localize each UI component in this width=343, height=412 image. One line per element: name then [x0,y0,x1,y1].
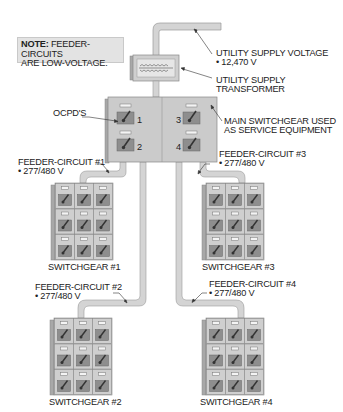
note-prefix: NOTE: [21,39,49,49]
ocpd-number-1: 1 [137,116,142,126]
switchgear-2-caption: SWITCHGEAR #2 [49,398,121,408]
switchgear-4 [202,318,264,395]
ocpds-label: OCPD'S [53,109,86,119]
switchgear-4-caption: SWITCHGEAR #4 [200,398,272,408]
feeder-2-voltage: • 277/480 V [35,292,80,302]
feeder-4-voltage: • 277/480 V [209,289,254,299]
transformer-label-line2: TRANSFORMER [216,85,285,95]
switchgear-3-caption: SWITCHGEAR #3 [202,263,274,273]
utility-conduit [153,23,221,56]
main-switchgear-label-line2: AS SERVICE EQUIPMENT [224,126,332,136]
switchgear-2 [50,318,112,395]
ocpd-number-3: 3 [176,116,181,126]
switchgear-1 [51,183,113,260]
utility-voltage-value: • 12,470 V [216,58,257,68]
transformer-to-main-conduit [153,81,159,97]
note-line2: ARE LOW-VOLTAGE. [21,58,108,68]
main-switchgear [105,97,217,163]
switchgear-1-caption: SWITCHGEAR #1 [48,263,120,273]
feeder-3-voltage: • 277/480 V [219,159,264,169]
note-box: NOTE: FEEDER-CIRCUITS ARE LOW-VOLTAGE. [17,37,124,63]
ocpd-number-4: 4 [176,143,181,153]
feeder-1-voltage: • 277/480 V [18,167,63,177]
ocpd-number-2: 2 [137,143,142,153]
switchgear-3 [202,183,264,260]
utility-transformer [130,55,179,81]
